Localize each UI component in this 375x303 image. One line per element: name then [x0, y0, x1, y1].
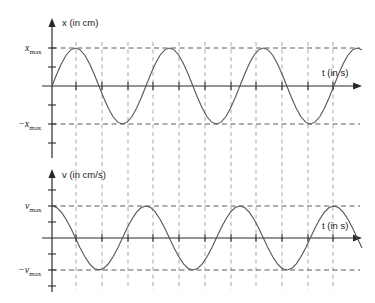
x-axis-arrowhead — [48, 18, 55, 27]
v-axis-arrowhead — [48, 169, 55, 178]
v-axis-label: v (in cm/s) — [62, 169, 106, 180]
shm-displacement-velocity-figure: x (in cm) t (in s) xmax −xmax — [0, 0, 375, 303]
shared-vertical-guides — [76, 42, 333, 290]
velocity-graph: v (in cm/s) t (in s) vmax −vmax — [18, 169, 362, 292]
neg-x-max-label: −xmax — [18, 118, 42, 132]
v-max-label: vmax — [25, 200, 42, 214]
neg-v-max-label: −vmax — [18, 264, 42, 278]
x-max-label: xmax — [24, 42, 42, 56]
displacement-graph: x (in cm) t (in s) xmax −xmax — [18, 17, 362, 158]
t-axis-top-arrowhead — [353, 82, 362, 89]
x-axis-label: x (in cm) — [62, 17, 98, 28]
t-axis-top-label: t (in s) — [322, 67, 348, 78]
t-axis-bottom-label: t (in s) — [322, 220, 348, 231]
